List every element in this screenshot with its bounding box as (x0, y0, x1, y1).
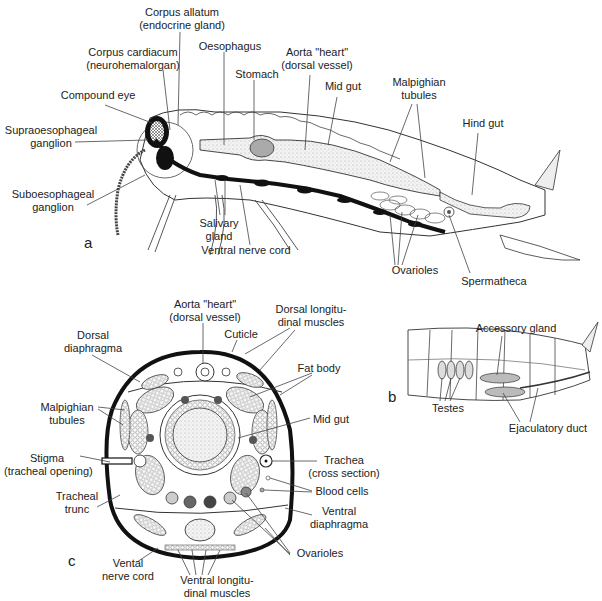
label-corpus-cardiacum: Corpus cardiacum (neurohemalorgan) (78, 46, 188, 71)
label-accessory-gland: Accessory gland (468, 322, 564, 335)
label-stomach: Stomach (232, 68, 282, 81)
label-blood-cells: Blood cells (312, 485, 372, 498)
panel-c-drawing (102, 352, 293, 558)
label-cuticle: Cuticle (216, 328, 266, 341)
label-salivary-gland: Salivary gland (194, 217, 244, 242)
label-compound-eye: Compound eye (56, 89, 140, 102)
label-malpighian-c: Malpighian tubules (34, 401, 100, 426)
panel-a-drawing (116, 110, 580, 261)
label-oesophagus: Oesophagus (195, 40, 265, 53)
panel-letter-b: b (388, 388, 396, 405)
insect-anatomy-figure: a b c Corpus allatum (endocrine gland) C… (0, 0, 602, 601)
label-mid-gut-c: Mid gut (306, 413, 356, 426)
panel-letter-c: c (68, 552, 76, 569)
label-spermatheca: Spermatheca (454, 275, 534, 288)
label-trachea: Trachea (cross section) (304, 454, 384, 479)
label-supraoesophageal: Supraoesophageal ganglion (2, 124, 100, 149)
label-malpighian-a: Malpighian tubules (384, 76, 454, 101)
label-ventral-nerve-cord: Ventral nerve cord (196, 244, 296, 257)
label-ovarioles-a: Ovarioles (385, 264, 445, 277)
label-aorta-a: Aorta "heart" (dorsal vessel) (272, 46, 362, 71)
label-fat-body: Fat body (294, 362, 344, 375)
label-ovarioles-c: Ovarioles (290, 547, 350, 560)
label-stigma: Stigma (tracheal opening) (4, 452, 90, 477)
label-dorsal-longitudinal-muscles: Dorsal longitu- dinal muscles (266, 303, 356, 328)
label-aorta-c: Aorta "heart" (dorsal vessel) (160, 298, 250, 323)
label-hind-gut: Hind gut (458, 117, 508, 130)
label-ejaculatory-duct: Ejaculatory duct (498, 422, 598, 435)
label-suboesophageal: Suboesophageal ganglion (8, 188, 98, 213)
panel-letter-a: a (84, 234, 92, 251)
label-mid-gut-a: Mid gut (318, 80, 368, 93)
label-corpus-allatum: Corpus allatum (endocrine gland) (120, 6, 244, 31)
label-ventral-diaphragma: Ventral diaphragma (304, 505, 374, 530)
label-dorsal-diaphragma: Dorsal diaphragma (58, 329, 128, 354)
label-tracheal-trunc: Tracheal trunc (50, 490, 104, 515)
label-ventral-longitudinal-muscles: Ventral longitu- dinal muscles (172, 574, 262, 599)
label-vental-nerve-cord: Vental nerve cord (98, 557, 158, 582)
label-testes: Testes (428, 402, 468, 415)
